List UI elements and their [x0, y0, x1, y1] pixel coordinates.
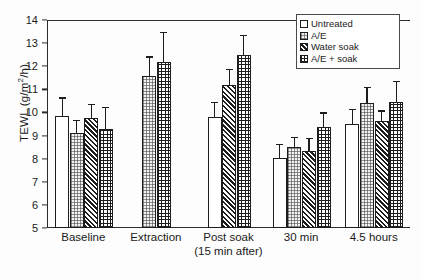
legend-item: A/E + soak — [300, 53, 395, 64]
bar — [389, 102, 403, 228]
bar — [208, 117, 222, 228]
legend-label: Water soak — [311, 42, 359, 52]
x-axis-label: Baseline — [47, 231, 120, 245]
error-bar-cap — [146, 56, 153, 57]
error-bar-cap — [364, 87, 371, 88]
error-bar — [352, 110, 353, 124]
error-bar-cap — [226, 69, 233, 70]
x-axis-label: 4.5 hours — [337, 231, 410, 245]
error-bar — [308, 139, 309, 151]
y-tick-label-9: 9 — [32, 130, 38, 142]
y-tick-label-14: 14 — [26, 14, 38, 26]
error-bar — [91, 105, 92, 118]
error-bar — [396, 82, 397, 102]
legend-item: A/E — [300, 30, 395, 41]
bar — [317, 127, 331, 228]
error-bar-cap — [378, 110, 385, 111]
error-bar — [381, 112, 382, 122]
bar — [142, 76, 156, 228]
error-bar-cap — [306, 138, 313, 139]
error-bar-cap — [291, 137, 298, 138]
bar — [157, 62, 171, 228]
legend-item: Water soak — [300, 42, 395, 53]
y-tick-label-6: 6 — [32, 199, 38, 211]
bar — [222, 85, 236, 228]
error-bar-cap — [88, 104, 95, 105]
legend-label: A/E + soak — [311, 54, 357, 64]
error-bar-cap — [73, 120, 80, 121]
bar — [84, 118, 98, 228]
bar — [99, 129, 113, 228]
x-axis-label: Post soak(15 min after) — [192, 231, 265, 258]
chart-container: TEWL (g/m2/h) 567891011121314 BaselineEx… — [0, 0, 421, 280]
legend-label: Untreated — [311, 19, 353, 29]
x-axis-label-main: Extraction — [130, 231, 181, 243]
chart-legend: UntreatedA/EWater soakA/E + soak — [296, 14, 400, 69]
error-bar — [294, 138, 295, 147]
error-bar — [366, 88, 367, 103]
legend-swatch-dense-diagonal-hatch — [300, 43, 308, 51]
y-tick-label-13: 13 — [26, 37, 38, 49]
y-tick-label-8: 8 — [32, 153, 38, 165]
x-axis-label-sub: (15 min after) — [192, 245, 265, 259]
error-bar-cap — [240, 35, 247, 36]
bar — [70, 133, 84, 228]
y-tick-label-11: 11 — [27, 83, 38, 95]
x-axis-label-main: 30 min — [284, 231, 319, 243]
x-axis-labels: BaselineExtractionPost soak(15 min after… — [47, 231, 410, 277]
error-bar-cap — [320, 112, 327, 113]
legend-label: A/E — [311, 31, 326, 41]
bar — [375, 121, 389, 228]
legend-swatch-crosshatch-grid — [300, 55, 308, 63]
error-bar — [323, 114, 324, 127]
error-bar-cap — [102, 107, 109, 108]
bar — [360, 103, 374, 228]
error-bar — [243, 36, 244, 54]
x-axis-label-main: Baseline — [61, 231, 105, 243]
error-bar — [214, 103, 215, 117]
error-bar-cap — [393, 81, 400, 82]
legend-swatch-open-white — [300, 20, 308, 28]
error-bar — [149, 58, 150, 76]
bar — [345, 124, 359, 228]
error-bar-cap — [59, 97, 66, 98]
error-bar — [163, 33, 164, 62]
y-tick-label-12: 12 — [26, 60, 38, 72]
bar — [237, 55, 251, 228]
error-bar-cap — [349, 109, 356, 110]
y-axis-ticks: 567891011121314 — [0, 0, 47, 280]
error-bar — [279, 145, 280, 158]
legend-swatch-light-dotted — [300, 32, 308, 40]
bar-group — [120, 20, 193, 228]
error-bar-cap — [276, 144, 283, 145]
bar — [273, 158, 287, 228]
error-bar — [62, 99, 63, 116]
x-axis-label-main: 4.5 hours — [350, 231, 398, 243]
bar — [55, 116, 69, 228]
bar — [302, 151, 316, 228]
bar-group — [47, 20, 120, 228]
bar-group — [192, 20, 265, 228]
y-tick-label-7: 7 — [32, 176, 38, 188]
x-axis-label: Extraction — [120, 231, 193, 245]
error-bar-cap — [160, 32, 167, 33]
y-tick-label-5: 5 — [32, 222, 38, 234]
error-bar — [229, 70, 230, 85]
error-bar-cap — [211, 102, 218, 103]
legend-item: Untreated — [300, 19, 395, 30]
error-bar — [76, 121, 77, 133]
x-axis-label-main: Post soak — [203, 231, 254, 243]
bar — [287, 147, 301, 228]
x-axis-label: 30 min — [265, 231, 338, 245]
error-bar — [105, 108, 106, 129]
y-tick-label-10: 10 — [26, 106, 38, 118]
